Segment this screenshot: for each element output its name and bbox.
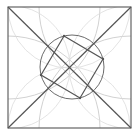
rhombus-vertex-top [63,35,65,37]
diagonals-group [8,7,131,128]
construction-diagram [0,0,139,136]
geometric-figure-canvas [0,0,139,136]
rhombus-vertex-bottom [79,97,81,99]
rhombus-vertex-right [102,58,104,60]
rhombus-vertex-left [40,74,42,76]
